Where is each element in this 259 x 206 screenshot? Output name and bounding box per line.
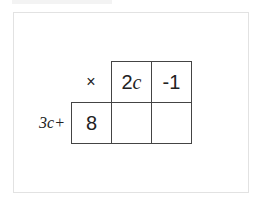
- top-strip: [12, 0, 112, 4]
- row-expression-label: 3c+: [28, 102, 71, 144]
- multiply-symbol: ×: [71, 61, 111, 102]
- coefficient: 2: [121, 71, 132, 94]
- variable: c: [133, 71, 142, 94]
- product-cell-2[interactable]: [151, 102, 192, 144]
- product-cell-1[interactable]: [111, 102, 152, 144]
- row-header-8: 8: [71, 102, 112, 144]
- column-header-neg1: -1: [151, 61, 192, 103]
- column-header-2c: 2c: [111, 61, 152, 103]
